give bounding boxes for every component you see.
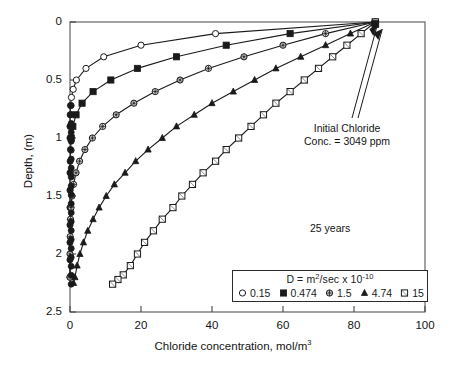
time-annotation: 25 years bbox=[310, 222, 350, 235]
legend: D = m2/sec x 10-10 0.150.4741.54.7415 bbox=[232, 270, 428, 302]
legend-item-0-15[interactable]: 0.15 bbox=[236, 286, 270, 299]
axis-saturation-markers bbox=[68, 103, 74, 288]
x-tick-label: 0 bbox=[50, 319, 90, 331]
legend-title: D = m2/sec x 10-10 bbox=[233, 273, 427, 285]
x-tick-label: 20 bbox=[121, 319, 161, 331]
legend-label: 1.5 bbox=[337, 287, 352, 299]
plot-frame bbox=[70, 22, 425, 312]
legend-marker-filled-square-icon bbox=[277, 286, 290, 299]
x-tick-label: 100 bbox=[405, 319, 445, 331]
legend-item-4-74[interactable]: 4.74 bbox=[358, 286, 392, 299]
legend-marker-filled-triangle-icon bbox=[358, 286, 371, 299]
y-tick-label: 1.5 bbox=[22, 189, 62, 201]
legend-item-1-5[interactable]: 1.5 bbox=[323, 286, 352, 299]
legend-label: 0.474 bbox=[291, 287, 317, 299]
initial-chloride-line1: Initial Chloride bbox=[304, 122, 390, 135]
legend-item-15[interactable]: 15 bbox=[398, 286, 424, 299]
legend-label: 0.15 bbox=[250, 287, 270, 299]
legend-item-0-474[interactable]: 0.474 bbox=[277, 286, 317, 299]
legend-marker-open-circle-icon bbox=[236, 286, 249, 299]
y-tick-label: 0 bbox=[22, 15, 62, 27]
plot-canvas bbox=[0, 0, 466, 366]
y-axis-title-wrapper: Depth, (m) bbox=[18, 71, 36, 251]
x-tick-label: 60 bbox=[263, 319, 303, 331]
converge-point-marker bbox=[372, 21, 379, 28]
x-axis-title: Chloride concentration, mol/m3 bbox=[0, 340, 466, 352]
legend-label: 15 bbox=[412, 287, 424, 299]
y-tick-label: 0.5 bbox=[22, 73, 62, 85]
legend-marker-open-square-icon bbox=[398, 286, 411, 299]
legend-items: 0.150.4741.54.7415 bbox=[233, 285, 427, 299]
x-tick-label: 80 bbox=[334, 319, 374, 331]
legend-marker-crossed-circle-icon bbox=[323, 286, 336, 299]
initial-chloride-arrow bbox=[352, 25, 382, 118]
y-tick-label: 2 bbox=[22, 247, 62, 259]
x-tick-label: 40 bbox=[192, 319, 232, 331]
chloride-depth-profile-figure: Chloride concentration, mol/m3 Depth, (m… bbox=[0, 0, 466, 366]
y-tick-label: 2.5 bbox=[22, 305, 62, 317]
initial-chloride-line2: Conc. = 3049 ppm bbox=[304, 135, 390, 148]
initial-chloride-annotation: Initial Chloride Conc. = 3049 ppm bbox=[304, 122, 390, 148]
legend-label: 4.74 bbox=[372, 287, 392, 299]
y-tick-label: 1 bbox=[22, 131, 62, 143]
